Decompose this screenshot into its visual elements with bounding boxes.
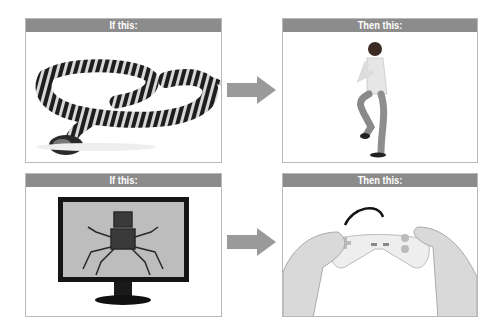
man-dancing-image bbox=[283, 32, 477, 162]
right-arrow-icon bbox=[227, 228, 277, 256]
gamepad-hands-image bbox=[283, 187, 477, 316]
then-panel-2: Then this: bbox=[282, 173, 478, 317]
panel-header: Then this: bbox=[298, 174, 463, 187]
if-panel-1: If this: bbox=[25, 18, 222, 163]
right-arrow-icon bbox=[227, 76, 277, 104]
panel-header: Then this: bbox=[298, 19, 463, 32]
snake-image bbox=[26, 32, 221, 162]
panel-header: If this: bbox=[41, 174, 207, 187]
monitor-robot-image bbox=[26, 187, 221, 316]
if-panel-2: If this: bbox=[25, 173, 222, 317]
then-panel-1: Then this: bbox=[282, 18, 478, 163]
panel-header: If this: bbox=[41, 19, 207, 32]
